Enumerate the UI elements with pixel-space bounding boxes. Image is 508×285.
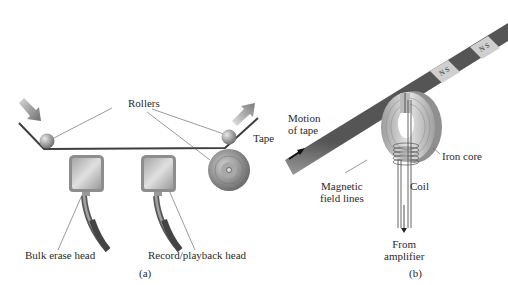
motion-of-tape-label: Motion of tape bbox=[288, 112, 320, 136]
bulk-erase-head-label: Bulk erase head bbox=[25, 249, 95, 261]
motion-label-line2: of tape bbox=[288, 124, 320, 136]
iron-core bbox=[381, 91, 442, 163]
caption-b: (b) bbox=[409, 267, 422, 279]
iron-core-label: Iron core bbox=[442, 150, 482, 162]
right-roller bbox=[222, 130, 237, 145]
coil-label: Coil bbox=[410, 180, 429, 192]
magnetic-label-line1: Magnetic bbox=[320, 180, 364, 192]
left-roller bbox=[40, 134, 55, 149]
motion-label-line1: Motion bbox=[288, 112, 320, 124]
tape-label: Tape bbox=[253, 132, 274, 144]
from-amplifier-label: From amplifier bbox=[384, 238, 424, 262]
caption-a: (a) bbox=[139, 267, 151, 279]
bulk-erase-head bbox=[69, 155, 108, 250]
current-down-arrow-icon bbox=[401, 205, 407, 233]
record-playback-head-label: Record/playback head bbox=[148, 249, 246, 261]
rollers-label: Rollers bbox=[128, 97, 160, 109]
magnetic-field-lines-label: Magnetic field lines bbox=[320, 180, 364, 204]
from-label-line2: amplifier bbox=[384, 250, 424, 262]
tape-reel bbox=[208, 149, 250, 191]
magnetic-label-line2: field lines bbox=[320, 192, 364, 204]
tape-in-arrow-icon bbox=[19, 98, 41, 121]
figure-a bbox=[19, 98, 258, 250]
from-label-line1: From bbox=[384, 238, 424, 250]
